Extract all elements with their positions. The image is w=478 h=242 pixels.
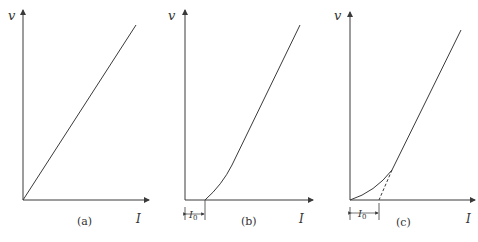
panel-a: v I (a) (8, 8, 149, 228)
y-axis-label: v (168, 8, 176, 23)
offset-curve (205, 25, 300, 200)
x-axis-label: I (298, 212, 304, 226)
panel-c: I0 v I (c) (334, 8, 475, 229)
panel-caption: (c) (396, 216, 411, 229)
y-axis-label: v (8, 8, 16, 23)
panel-b: I0 v I (b) (168, 8, 313, 228)
extrapolation-dashed (379, 170, 392, 200)
i0-label: I0 (188, 209, 197, 222)
nonlinear-curve (350, 30, 461, 200)
linear-curve (23, 25, 136, 200)
y-axis-label: v (334, 8, 342, 23)
panel-caption: (b) (241, 215, 257, 228)
i0-label: I0 (357, 208, 366, 221)
x-axis-label: I (135, 212, 141, 226)
x-axis-label: I (465, 212, 471, 226)
panel-caption: (a) (77, 215, 92, 228)
vi-diagram: v I (a) I0 v I (b) I0 v I (c) (0, 0, 478, 242)
